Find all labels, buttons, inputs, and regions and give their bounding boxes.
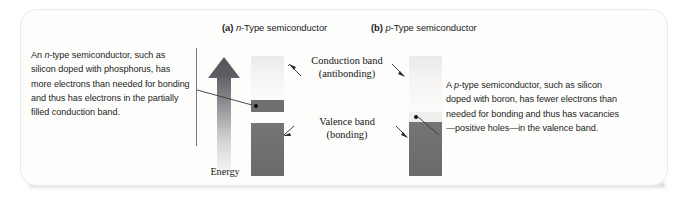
title-a-tag: (a) <box>222 22 233 33</box>
caption-right-text: -type semiconductor, such as silicon dop… <box>446 80 619 133</box>
electron-dot <box>254 104 258 108</box>
n-type-valence-band <box>251 123 284 176</box>
p-type-conduction-band <box>409 56 442 112</box>
caption-p-type: A p-type semiconductor, such as silicon … <box>446 78 628 135</box>
title-p-type: (b) p-Type semiconductor <box>371 22 477 33</box>
conduction-band-label-line2: (antibonding) <box>291 68 403 81</box>
energy-arrow-icon <box>207 57 241 170</box>
caption-n-type: An n-type semiconductor, such as silicon… <box>31 48 191 119</box>
conduction-band-label-line1: Conduction band <box>291 55 403 68</box>
p-type-valence-band <box>409 122 442 176</box>
valence-band-label-line1: Valence band <box>297 116 397 129</box>
caption-left-divider <box>196 48 197 146</box>
valence-band-label: Valence band (bonding) <box>297 116 397 141</box>
figure-screenshot: (a) n-Type semiconductor (b) p-Type semi… <box>0 0 686 207</box>
n-type-conduction-band <box>251 56 284 100</box>
title-a-rest: -Type semiconductor <box>241 22 327 33</box>
caption-right-lead: A <box>446 80 454 90</box>
title-b-rest: -Type semiconductor <box>391 22 477 33</box>
title-b-tag: (b) <box>371 22 383 33</box>
valence-band-label-line2: (bonding) <box>297 129 397 142</box>
caption-left-lead: An <box>31 50 44 60</box>
caption-left-text: -type semiconductor, such as silicon dop… <box>31 50 190 117</box>
energy-axis-label: Energy <box>198 166 252 177</box>
title-n-type: (a) n-Type semiconductor <box>222 22 327 33</box>
conduction-band-label: Conduction band (antibonding) <box>291 55 403 80</box>
